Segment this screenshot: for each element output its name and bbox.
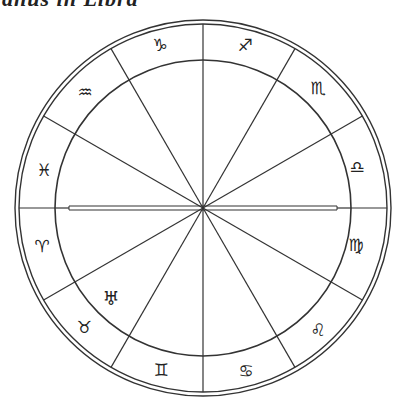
gemini-icon: ♊︎	[153, 360, 168, 380]
scorpio-icon: ♏︎	[310, 78, 325, 98]
taurus-icon: ♉︎	[76, 317, 91, 337]
cancer-icon: ♋︎	[238, 361, 253, 381]
sagittarius-icon: ♐︎	[237, 35, 252, 55]
zodiac-wheel: ♈︎♉︎♊︎♋︎♌︎♍︎♎︎♏︎♐︎♑︎♒︎♓︎ ♅︎	[0, 0, 395, 406]
aries-icon: ♈︎	[34, 236, 49, 256]
cusp-line	[44, 208, 203, 300]
cusp-line	[111, 49, 203, 208]
capricorn-icon: ♑︎	[152, 35, 167, 55]
planet-glyphs: ♅︎	[102, 287, 119, 309]
libra-icon: ♎︎	[349, 157, 364, 177]
zodiac-sign-glyphs: ♈︎♉︎♊︎♋︎♌︎♍︎♎︎♏︎♐︎♑︎♒︎♓︎	[34, 35, 364, 381]
aquarius-icon: ♒︎	[77, 82, 92, 102]
cusp-line	[203, 116, 362, 208]
house-cusp-lines	[19, 24, 387, 392]
pisces-icon: ♓︎	[36, 160, 51, 180]
virgo-icon: ♍︎	[348, 235, 363, 255]
cusp-line	[203, 208, 362, 300]
cusp-line	[111, 208, 203, 367]
cusp-line	[203, 208, 295, 367]
cusp-line	[44, 116, 203, 208]
cusp-line	[203, 49, 295, 208]
uranus-icon: ♅︎	[102, 287, 119, 309]
leo-icon: ♌︎	[310, 320, 325, 340]
